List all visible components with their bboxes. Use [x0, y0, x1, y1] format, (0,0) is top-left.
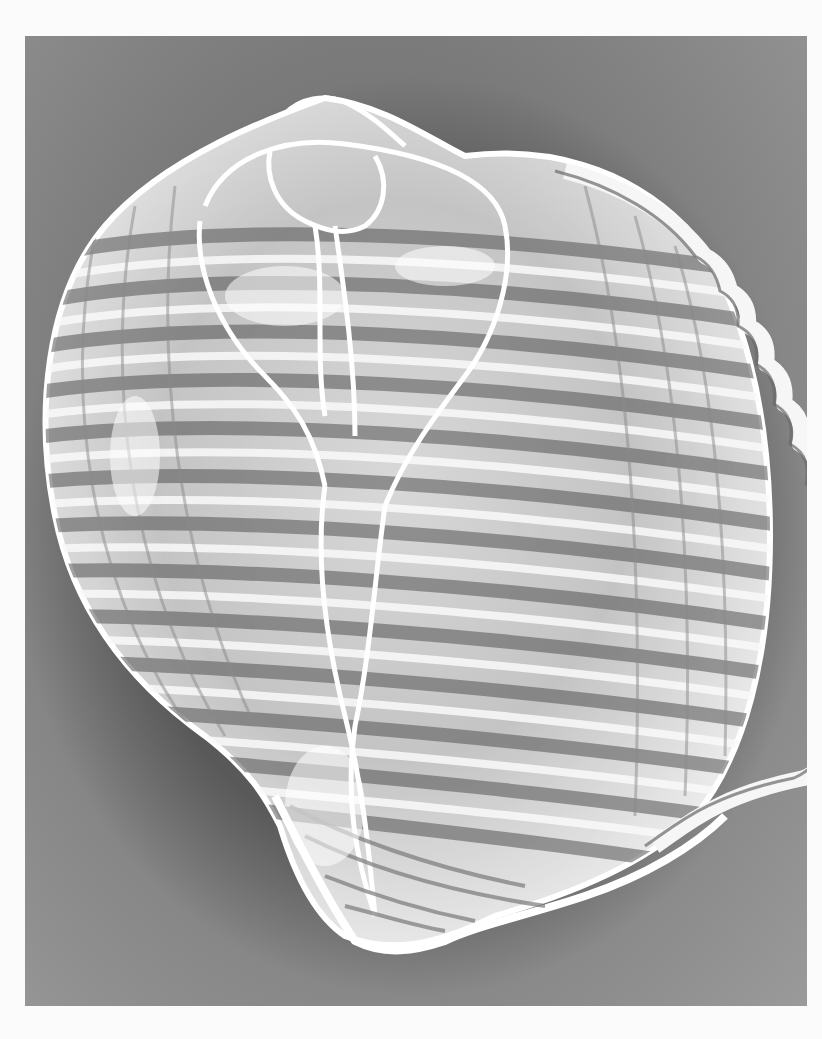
photo-panel: Grayscale radiograph-like photograph of …: [25, 36, 807, 1006]
shell-illustration: [25, 36, 807, 1006]
